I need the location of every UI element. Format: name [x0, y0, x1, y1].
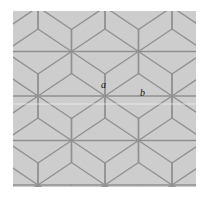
label-b: b [140, 88, 145, 98]
tiling-svg [0, 0, 211, 197]
label-a: a [101, 80, 106, 90]
hexagonal-lattice-figure: a b [0, 0, 211, 197]
